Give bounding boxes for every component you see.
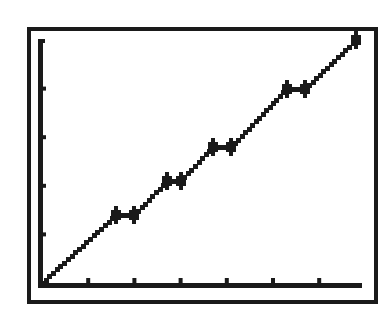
y-axis-top-tick — [38, 39, 45, 43]
y-tick — [38, 184, 46, 188]
y-tick — [38, 232, 46, 236]
x-tick — [225, 278, 229, 284]
y-tick — [38, 135, 46, 139]
y-tick — [38, 87, 46, 91]
x-tick — [132, 278, 136, 284]
data-marker-bar — [211, 138, 215, 156]
data-marker-bar — [229, 138, 233, 156]
data-marker-bar — [165, 172, 169, 190]
x-tick — [86, 278, 90, 284]
data-marker-bar — [354, 31, 358, 49]
data-marker-bar — [303, 80, 307, 98]
x-tick — [179, 278, 183, 284]
data-marker-bar — [285, 80, 289, 98]
y-axis — [38, 39, 43, 288]
x-tick — [271, 278, 275, 284]
plot-pixel — [294, 87, 299, 92]
calculator-graph-screen — [0, 0, 391, 325]
data-marker-bar — [114, 206, 118, 224]
data-marker-bar — [179, 172, 183, 190]
x-tick — [317, 278, 321, 284]
plot-pixel — [220, 145, 225, 150]
plot-line — [40, 38, 359, 286]
plot-pixel — [123, 213, 128, 218]
data-markers — [111, 31, 361, 224]
data-marker-bar — [132, 206, 136, 224]
